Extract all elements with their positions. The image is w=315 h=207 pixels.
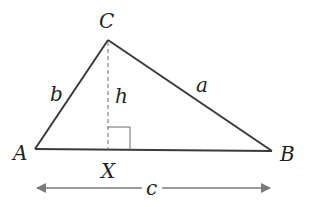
dimension-label-c: c	[146, 176, 157, 200]
vertex-label-c: C	[99, 9, 114, 33]
vertex-label-b: B	[279, 142, 295, 166]
altitude-label-h: h	[115, 84, 128, 108]
side-label-a: a	[196, 73, 208, 97]
vertex-label-a: A	[11, 141, 27, 165]
right-angle-marker	[108, 127, 130, 150]
side-b	[35, 40, 108, 149]
foot-label-x: X	[99, 159, 116, 183]
side-a	[108, 40, 272, 151]
triangle-diagram: C A B X b h a c	[0, 0, 315, 207]
side-label-b: b	[50, 82, 63, 106]
side-c	[35, 149, 272, 151]
